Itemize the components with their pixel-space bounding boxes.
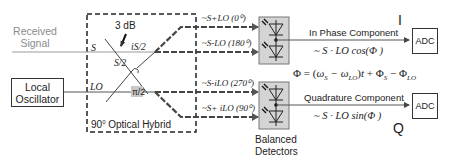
local-oscillator-box: Local Oscillator: [11, 78, 64, 107]
in-phase-formula: ~ S · LO cos(Φ ): [314, 45, 383, 56]
s-port-label: S: [91, 42, 96, 53]
q-channel-label: Q: [393, 120, 404, 136]
crossover-bump: [132, 68, 138, 73]
coupler-arrow: [121, 34, 126, 46]
coupler-line-up: [106, 71, 132, 102]
balanced-detectors-label-line2: Detectors: [255, 146, 295, 158]
balanced-detectors-label: Balanced Detectors: [255, 134, 295, 158]
s2-label: S/2: [114, 58, 126, 68]
coupler-upper-branch: [137, 52, 155, 68]
output-label-180deg: ~S-LO (180⁰): [202, 38, 252, 48]
adc-i-box: ADC: [412, 28, 438, 54]
hybrid-label: 900 Optical Hybrid: [91, 119, 171, 130]
in-phase-label: In Phase Component: [309, 27, 398, 38]
output-label-0deg: ~S+LO (0⁰): [202, 13, 246, 23]
received-signal-label-line2: Signal: [10, 37, 60, 49]
output-label-270deg: ~S-iLO (270⁰): [202, 78, 254, 88]
quadrature-label: Quadrature Component: [304, 92, 404, 103]
received-signal-label: Received Signal: [10, 25, 60, 49]
local-oscillator-label-line2: Oscillator: [16, 93, 60, 105]
adc-q-box: ADC: [412, 93, 438, 119]
phase-equation: Φ = (ωS − ωLO)t + ΦS − ΦLO: [293, 67, 416, 82]
received-signal-label-line1: Received: [10, 25, 60, 37]
phase-shift-label: π/2: [132, 87, 145, 97]
balanced-detectors-label-line1: Balanced: [255, 134, 295, 146]
coupler-3db-label: 3 dB: [115, 20, 136, 31]
optical-hybrid-diagram: Received Signal Local Oscillator 3 dB S …: [0, 0, 449, 162]
quadrature-formula: ~ S · LO sin(Φ ): [314, 110, 381, 121]
is2-label: iS/2: [131, 42, 146, 52]
local-oscillator-label-line1: Local: [25, 81, 50, 93]
i-channel-label: I: [398, 12, 402, 28]
lo-port-label: LO: [90, 81, 103, 92]
output-label-90deg: ~S+ iLO (90⁰): [202, 103, 255, 113]
